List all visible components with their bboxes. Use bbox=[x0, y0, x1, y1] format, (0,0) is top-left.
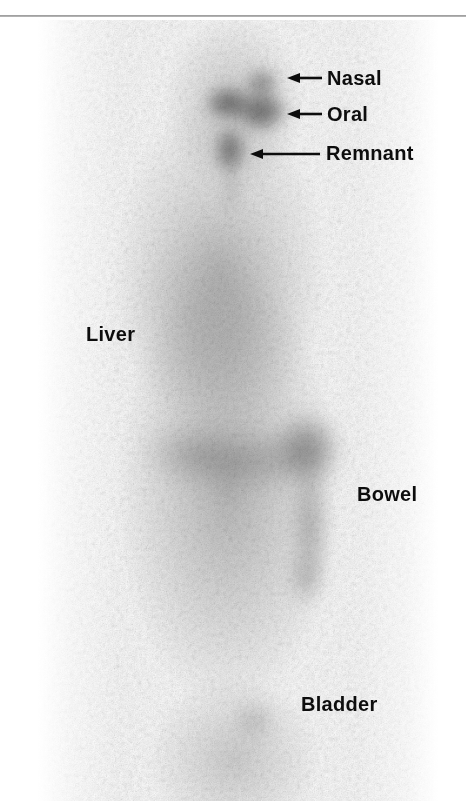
label-bladder: Bladder bbox=[301, 694, 378, 714]
label-oral: Oral bbox=[327, 104, 368, 124]
label-bowel: Bowel bbox=[357, 484, 417, 504]
leader-arrow-remnant bbox=[250, 148, 320, 160]
whole-body-scan-image bbox=[38, 20, 438, 801]
leader-arrow-oral bbox=[287, 108, 322, 120]
leader-arrow-nasal bbox=[287, 72, 322, 84]
scintigram-figure: NasalOralRemnantLiverBowelBladder bbox=[0, 0, 466, 801]
label-liver: Liver bbox=[86, 324, 135, 344]
label-nasal: Nasal bbox=[327, 68, 382, 88]
label-remnant: Remnant bbox=[326, 143, 414, 163]
scan-grain-texture bbox=[38, 20, 438, 801]
page-edge-rule bbox=[0, 15, 466, 17]
